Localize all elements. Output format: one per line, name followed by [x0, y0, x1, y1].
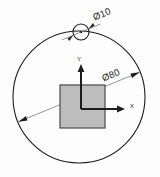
bolt-circle-arrow-right — [131, 72, 140, 78]
x-axis-arrowhead — [117, 106, 125, 113]
x-axis-label: X — [130, 103, 134, 109]
center-square — [60, 85, 105, 128]
y-axis-label: Y — [77, 56, 81, 62]
bolt-circle-arrow-left — [18, 116, 27, 122]
y-axis-arrowhead — [78, 64, 85, 72]
hole-diameter-label: Ø10 — [91, 5, 112, 22]
drawing-svg: Ø80 Ø10 Y X — [0, 0, 160, 177]
engineering-drawing: Ø80 Ø10 Y X — [0, 0, 160, 177]
